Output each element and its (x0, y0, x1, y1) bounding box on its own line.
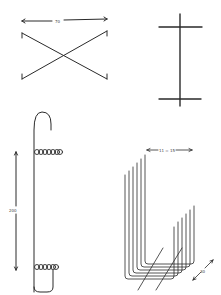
dimension-label-11-15: 11 = 15 (159, 148, 176, 153)
dimension-label-200: 200 (9, 208, 17, 213)
double-crossbar-post (159, 14, 202, 106)
technical-drawing: 70 200 11 = 15 30 (0, 0, 221, 295)
dimension-label-30: 30 (200, 269, 206, 274)
lower-coil (35, 265, 59, 270)
hooked-spring-wire (15, 112, 63, 292)
dimension-label-70: 70 (55, 19, 61, 24)
upper-coil (35, 150, 63, 155)
x-crossed-wires (22, 17, 107, 79)
